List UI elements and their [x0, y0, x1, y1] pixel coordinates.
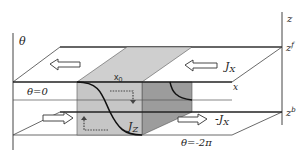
x-axis-label: x	[233, 82, 238, 92]
arrow-right-icon	[43, 112, 73, 124]
z-axis-label: z	[286, 13, 293, 24]
block-side-face	[142, 82, 192, 135]
zb-label: zb	[285, 106, 296, 118]
theta-minus-2pi-label: θ=-2π	[181, 137, 212, 148]
junction-block	[77, 47, 192, 135]
zf-label: zf	[285, 41, 295, 53]
theta-zero-label: θ=0	[27, 86, 48, 97]
arrow-left-icon-jx	[185, 60, 217, 71]
theta-axis-label: θ	[19, 35, 26, 48]
arrow-left-icon	[50, 59, 80, 70]
neg-jx-label: -JX	[215, 113, 229, 127]
phase-kink-diagram: θ z zf zb x θ=0 θ=-2π x0 JX -JX JZ	[0, 0, 306, 156]
block-top-face	[77, 47, 192, 82]
jx-label: JX	[223, 60, 235, 74]
